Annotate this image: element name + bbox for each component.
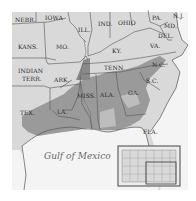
state-label-delaware: DEL.	[158, 33, 173, 39]
state-label-indian-territory-1: INDIAN	[18, 68, 43, 74]
state-label-maryland: MD.	[164, 23, 177, 29]
state-label-georgia: GA.	[128, 90, 139, 96]
state-label-florida: FLA.	[143, 129, 158, 135]
state-label-indiana: IND.	[98, 21, 113, 27]
state-label-north-carolina: N.C.	[152, 62, 165, 68]
state-label-arkansas: ARK.	[54, 77, 70, 83]
cotton-belt-map: NEBR. IOWA ILL. IND. OHIO PA. N.J. MD. D…	[0, 0, 196, 201]
state-label-mississippi: MISS.	[77, 93, 96, 99]
inset-locator-map	[118, 146, 180, 186]
state-label-south-carolina: S.C.	[146, 78, 159, 84]
state-label-pennsylvania: PA.	[152, 15, 162, 21]
map-graphic	[0, 0, 196, 201]
state-label-alabama: ALA.	[100, 92, 115, 98]
state-label-texas: TEX.	[20, 110, 35, 116]
state-label-illinois: ILL.	[78, 27, 91, 33]
state-label-missouri: MO.	[56, 44, 69, 50]
state-label-indian-territory-2: TERR.	[22, 76, 42, 82]
state-label-louisiana: LA.	[57, 109, 68, 115]
gulf-of-mexico-label: Gulf of Mexico	[44, 151, 111, 161]
state-label-nebraska: NEBR.	[15, 17, 36, 23]
state-label-iowa: IOWA	[45, 15, 63, 21]
state-label-kansas: KANS.	[18, 44, 38, 50]
state-label-new-jersey: N.J.	[173, 13, 184, 19]
state-label-tennessee: TENN.	[104, 65, 125, 71]
state-label-kentucky: KY.	[112, 48, 122, 54]
state-label-virginia: VA.	[150, 43, 160, 49]
state-label-ohio: OHIO	[118, 20, 136, 26]
